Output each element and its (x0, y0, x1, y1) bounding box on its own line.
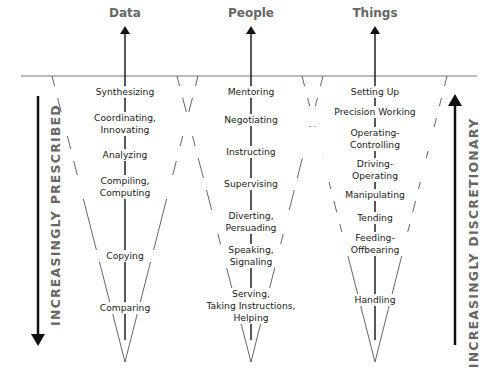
data-item-synthesizing: Synthesizing (53, 86, 197, 98)
data-item-compiling: Compiling,Computing (53, 175, 197, 199)
things-item-tending: Tending (303, 212, 447, 224)
people-item-instructing: Instructing (179, 146, 323, 158)
task-hierarchy-diagram: Data People Things Synthesizing Coordina… (0, 0, 502, 385)
things-item-manipulating: Manipulating (303, 189, 447, 201)
people-item-diverting: Diverting,Persuading (179, 210, 323, 234)
people-item-mentoring: Mentoring (179, 86, 323, 98)
people-item-supervising: Supervising (179, 178, 323, 190)
things-item-driving-operating: Driving-Operating (303, 158, 447, 182)
things-item-handling: Handling (303, 294, 447, 306)
people-item-speaking: Speaking,Signaling (179, 244, 323, 268)
data-item-analyzing: Analyzing (53, 149, 197, 161)
column-title-people: People (201, 6, 301, 20)
column-title-things: Things (325, 6, 425, 20)
data-item-copying: Copying (53, 250, 197, 262)
side-label-discretionary: INCREASINGLY DISCRETIONARY (466, 118, 481, 368)
things-item-feeding-offbearing: Feeding-Offbearing (303, 232, 447, 256)
data-item-comparing: Comparing (53, 302, 197, 314)
things-item-precision-working: Precision Working (303, 106, 447, 118)
side-label-prescribed: INCREASINGLY PRESCRIBED (48, 104, 63, 326)
column-title-data: Data (75, 6, 175, 20)
things-item-setting-up: Setting Up (303, 86, 447, 98)
people-item-serving: Serving,Taking Instructions,Helping (179, 288, 323, 324)
people-item-negotiating: Negotiating (179, 114, 323, 126)
data-item-coordinating: Coordinating,Innovating (53, 112, 197, 136)
things-item-operating-controlling: Operating-Controlling (303, 127, 447, 151)
